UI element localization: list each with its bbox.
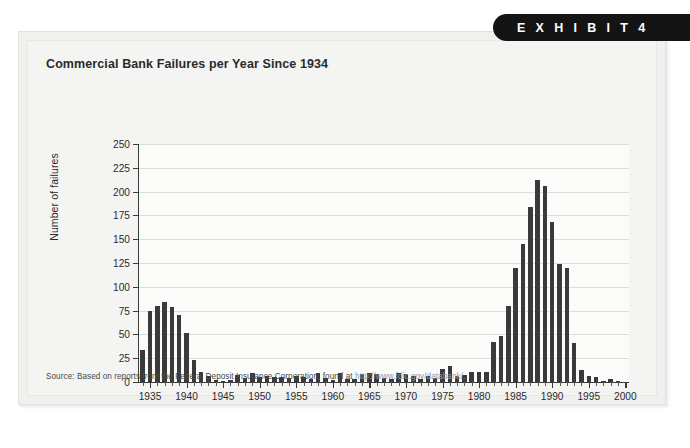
x-axis-tick-label: 1975 (431, 391, 454, 402)
gridline (139, 334, 629, 335)
x-axis-minor-tick (194, 382, 195, 386)
plot-area: 0255075100125150175200225250 19351940194… (138, 144, 629, 383)
x-axis-tick (625, 382, 626, 388)
x-axis-minor-tick (384, 382, 385, 386)
x-axis-minor-tick (450, 382, 451, 386)
x-axis-tick-label: 1980 (468, 391, 491, 402)
x-axis-tick-label: 1940 (175, 391, 198, 402)
x-axis-minor-tick (530, 382, 531, 386)
x-axis-tick-label: 1950 (248, 391, 271, 402)
x-axis-tick-label: 1995 (577, 391, 600, 402)
y-axis-tick-label: 100 (113, 281, 130, 292)
x-axis-minor-tick (413, 382, 414, 386)
y-axis-tick (133, 215, 139, 216)
x-axis-tick (369, 382, 370, 388)
gridline (139, 263, 629, 264)
y-axis-tick (133, 358, 139, 359)
gridline (139, 144, 629, 145)
y-axis-tick (133, 239, 139, 240)
bar (469, 372, 474, 382)
y-axis-tick-label: 250 (113, 139, 130, 150)
bar (543, 186, 548, 382)
x-axis-minor-tick (311, 382, 312, 386)
y-axis-tick (133, 334, 139, 335)
x-axis-minor-tick (494, 382, 495, 386)
x-axis-minor-tick (340, 382, 341, 386)
source-prefix: Source: Based on reports from the Federa… (46, 372, 355, 381)
bar (491, 342, 496, 382)
source-url: http://www.fdic.gov/databank/. (355, 372, 465, 381)
y-axis-tick-label: 75 (119, 305, 130, 316)
gridline (139, 168, 629, 169)
x-axis-minor-tick (457, 382, 458, 386)
x-axis-minor-tick (574, 382, 575, 386)
gridline (139, 311, 629, 312)
exhibit-panel: Commercial Bank Failures per Year Since … (18, 31, 666, 405)
bar (528, 207, 533, 382)
bar (162, 302, 167, 382)
x-axis-minor-tick (282, 382, 283, 386)
exhibit-badge: E X H I B I T 4 (493, 14, 690, 41)
x-axis-tick-label: 2000 (614, 391, 637, 402)
x-axis-minor-tick (421, 382, 422, 386)
bar (579, 370, 584, 382)
x-axis-minor-tick (216, 382, 217, 386)
y-axis-tick (133, 263, 139, 264)
bar (513, 268, 518, 382)
chart-figure: Number of failures 025507510012515017520… (28, 81, 658, 381)
x-axis-tick (223, 382, 224, 388)
bar (499, 336, 504, 382)
y-axis-tick-label: 125 (113, 258, 130, 269)
gridline (139, 287, 629, 288)
x-axis-minor-tick (545, 382, 546, 386)
y-axis-tick-label: 200 (113, 186, 130, 197)
x-axis-minor-tick (472, 382, 473, 386)
x-axis-minor-tick (157, 382, 158, 386)
y-axis-tick (133, 311, 139, 312)
y-axis-tick-label: 150 (113, 234, 130, 245)
x-axis-tick-label: 1945 (212, 391, 235, 402)
x-axis-minor-tick (230, 382, 231, 386)
bar (506, 306, 511, 382)
x-axis-minor-tick (179, 382, 180, 386)
x-axis-minor-tick (165, 382, 166, 386)
x-axis-minor-tick (538, 382, 539, 386)
y-axis-label: Number of failures (48, 127, 60, 267)
exhibit-label: E X H I B I T 4 (517, 21, 649, 35)
gridline (139, 215, 629, 216)
x-axis-minor-tick (245, 382, 246, 386)
x-axis-minor-tick (560, 382, 561, 386)
bar (565, 268, 570, 382)
x-axis-minor-tick (325, 382, 326, 386)
x-axis-minor-tick (238, 382, 239, 386)
y-axis-tick-label: 50 (119, 329, 130, 340)
x-axis-minor-tick (501, 382, 502, 386)
bar (170, 307, 175, 382)
x-axis-minor-tick (274, 382, 275, 386)
x-axis-minor-tick (391, 382, 392, 386)
x-axis-minor-tick (567, 382, 568, 386)
x-axis-minor-tick (289, 382, 290, 386)
source-note: Source: Based on reports from the Federa… (46, 372, 465, 381)
x-axis-tick-label: 1935 (139, 391, 162, 402)
bar (550, 222, 555, 382)
x-axis-minor-tick (172, 382, 173, 386)
x-axis-tick-label: 1985 (504, 391, 527, 402)
x-axis-minor-tick (618, 382, 619, 386)
y-axis-tick-label: 25 (119, 353, 130, 364)
x-axis-tick-label: 1990 (541, 391, 564, 402)
x-axis-tick-label: 1970 (395, 391, 418, 402)
x-axis-minor-tick (347, 382, 348, 386)
x-axis-minor-tick (486, 382, 487, 386)
x-axis-minor-tick (143, 382, 144, 386)
y-axis-tick (133, 168, 139, 169)
x-axis-tick (187, 382, 188, 388)
x-axis-minor-tick (435, 382, 436, 386)
x-axis-tick-label: 1960 (321, 391, 344, 402)
x-axis-minor-tick (252, 382, 253, 386)
x-axis-minor-tick (399, 382, 400, 386)
x-axis-minor-tick (201, 382, 202, 386)
exhibit-panel-inner: Commercial Bank Failures per Year Since … (27, 40, 657, 396)
bar (535, 180, 540, 382)
x-axis-minor-tick (581, 382, 582, 386)
